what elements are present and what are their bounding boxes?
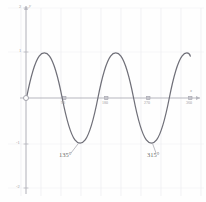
x-tick-label-90: 90 [61,101,65,105]
x-axis [20,96,200,100]
origin-marker [24,96,29,101]
y-axis-label: y [29,4,31,9]
x-tick-label-270: 270 [144,101,150,105]
y-tick-label-neg1: -1 [16,141,20,146]
chart-figure: 2 1 -1 -2 90 180 270 360 x y 135° 315° [0,0,206,202]
annotation-label-135: 135° [59,152,71,159]
annotation-leader-lines [71,142,156,153]
y-tick-label-1: 1 [19,49,21,54]
x-tick-label-360: 360 [186,101,192,105]
x-axis-label: x [190,89,192,94]
annotation-label-315: 315° [147,152,159,159]
y-tick-label-2: 2 [19,5,21,10]
x-tick-label-180: 180 [102,101,108,105]
y-tick-label-neg2: -2 [16,185,20,190]
